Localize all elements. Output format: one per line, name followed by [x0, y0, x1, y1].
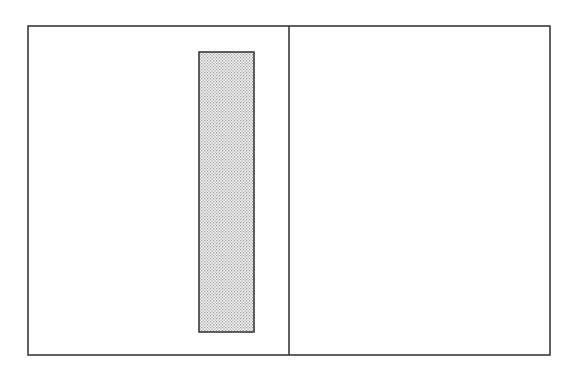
right-panel-region	[289, 26, 550, 355]
figure-canvas	[0, 0, 577, 380]
technical-drawing-svg	[0, 0, 577, 380]
hatched-rectangle-fill	[199, 52, 254, 332]
hatched-rectangle-group	[199, 52, 254, 332]
